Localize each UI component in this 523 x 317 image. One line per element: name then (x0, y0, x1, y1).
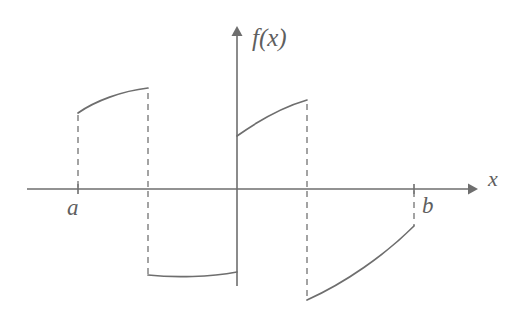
y-axis-label: f(x) (252, 24, 287, 52)
left-endpoint-label: a (67, 195, 79, 220)
function-branch-3 (237, 100, 307, 136)
function-branch-2 (148, 272, 237, 277)
x-axis-label: x (487, 166, 498, 191)
function-branches-group (78, 88, 414, 300)
y-axis-arrowhead (232, 26, 243, 36)
x-axis-arrowhead (468, 184, 478, 195)
function-branch-1 (78, 88, 148, 113)
right-endpoint-label: b (422, 193, 434, 218)
labels-group: f(x) x a b (67, 24, 498, 220)
function-branch-4 (307, 226, 414, 300)
piecewise-function-figure: f(x) x a b (0, 0, 523, 317)
axes-group (27, 26, 478, 286)
